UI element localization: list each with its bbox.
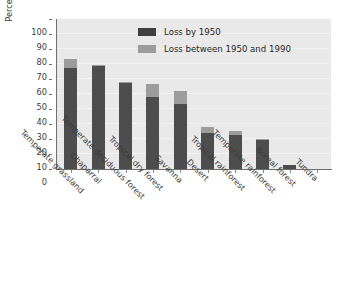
bar-segment-loss-between-1950-and-1990 [229,131,242,135]
y-tick-label: 10 [37,163,47,172]
y-tick-label: 90 [37,43,47,52]
legend-swatch-light [138,45,156,53]
bar-segment-loss-between-1950-and-1990 [119,82,132,83]
bar-segment-loss-between-1950-and-1990 [256,139,269,140]
legend-label-loss-by-1950: Loss by 1950 [164,25,221,39]
habitat-loss-bar-chart: Percent of habitat lost 1009080706050403… [0,0,347,286]
y-tick-label: 0 [42,178,47,187]
y-tick-mark [49,64,52,65]
legend-swatch-dark [138,28,156,36]
y-tick-mark [49,139,52,140]
y-tick-mark [49,79,52,80]
y-tick-mark [49,124,52,125]
bar-segment-loss-by-1950 [174,104,187,169]
chart-legend: Loss by 1950 Loss between 1950 and 1990 [138,25,328,59]
bar-segment-loss-between-1950-and-1990 [174,91,187,105]
y-tick-mark [49,34,52,35]
bar-segment-loss-between-1950-and-1990 [64,59,77,68]
bar-segment-loss-between-1950-and-1990 [92,65,105,66]
y-tick-label: 70 [37,73,47,82]
y-tick-mark [49,49,52,50]
y-tick-mark [49,109,52,110]
y-tick-mark [49,169,52,170]
legend-item-loss-by-1950: Loss by 1950 [138,25,328,39]
gridline [57,63,331,64]
legend-item-loss-between-1950-and-1990: Loss between 1950 and 1990 [138,42,328,56]
y-tick-label: 60 [37,88,47,97]
bar-group [174,91,187,169]
y-tick-label: 100 [31,28,47,37]
y-tick-mark [49,19,52,20]
bar-segment-loss-between-1950-and-1990 [146,84,159,97]
y-tick-label: 40 [37,118,47,127]
legend-label-loss-between-1950-and-1990: Loss between 1950 and 1990 [164,42,291,56]
y-tick-label: 50 [37,103,47,112]
y-tick-mark [49,94,52,95]
y-tick-label: 80 [37,58,47,67]
